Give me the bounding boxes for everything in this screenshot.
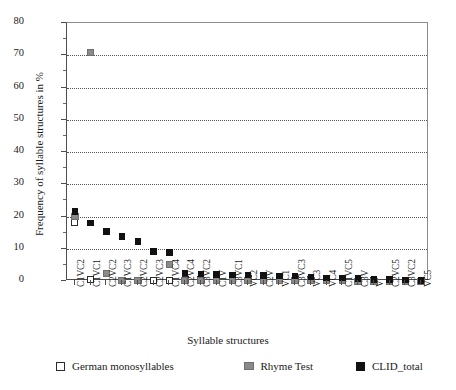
x-tick-mark-4 [137, 280, 138, 285]
legend-label: Rhyme Test [261, 360, 314, 372]
x-tick-mark-2 [105, 280, 106, 285]
x-tick-mark-11 [247, 280, 248, 285]
x-tick-label-10: C3VC1 [235, 213, 244, 287]
x-tick-mark-3 [121, 280, 122, 285]
x-tick-label-2: C2VC2 [109, 213, 118, 287]
x-tick-mark-9 [216, 280, 217, 285]
x-tick-mark-22 [420, 280, 421, 285]
x-tick-label-19: V [376, 213, 385, 287]
x-tick-label-11: VC2 [250, 213, 259, 287]
x-tick-label-14: C3VC3 [298, 213, 307, 287]
plot-area [66, 22, 428, 280]
x-axis-title: Syllable structures [0, 334, 456, 346]
x-tick-label-17: C1VC5 [345, 213, 354, 287]
y-tick-label-50: 50 [0, 113, 24, 124]
y-tick-label-0: 0 [0, 274, 24, 285]
x-tick-label-15: VC3 [313, 213, 322, 287]
gridline-40 [67, 152, 427, 153]
x-tick-label-7: C2VC4 [187, 213, 196, 287]
x-tick-label-22: VC5 [424, 213, 433, 287]
x-tick-mark-12 [263, 280, 264, 285]
x-tick-label-8: C3VC2 [203, 213, 212, 287]
legend-swatch-icon [244, 362, 254, 371]
x-tick-label-0: C1VC2 [77, 213, 86, 287]
gridline-70 [67, 55, 427, 56]
x-tick-label-12: C2V [266, 213, 275, 287]
x-tick-mark-19 [373, 280, 374, 285]
gridline-20 [67, 217, 427, 218]
y-tick-label-40: 40 [0, 145, 24, 156]
x-tick-mark-10 [231, 280, 232, 285]
y-tick-mark-0 [61, 280, 66, 281]
y-tick-label-10: 10 [0, 242, 24, 253]
x-tick-mark-20 [389, 280, 390, 285]
x-tick-label-6: C1VC4 [172, 213, 181, 287]
x-tick-label-20: C2VC5 [392, 213, 401, 287]
data-point [87, 49, 95, 56]
x-tick-mark-0 [74, 280, 75, 285]
legend-item-1: Rhyme Test [244, 360, 313, 372]
x-tick-mark-15 [310, 280, 311, 285]
legend-label: German monosyllables [72, 360, 174, 372]
gridline-10 [67, 249, 427, 250]
x-tick-mark-16 [326, 280, 327, 285]
chart-legend: German monosyllablesRhyme TestCLID_total [56, 360, 456, 378]
y-tick-label-20: 20 [0, 210, 24, 221]
gridline-60 [67, 88, 427, 89]
legend-swatch-icon [356, 362, 365, 371]
x-tick-label-1: C1VC1 [93, 213, 102, 287]
x-tick-mark-5 [153, 280, 154, 285]
y-tick-label-60: 60 [0, 81, 24, 92]
x-tick-mark-7 [184, 280, 185, 285]
x-tick-mark-1 [90, 280, 91, 285]
y-tick-label-30: 30 [0, 177, 24, 188]
gridline-30 [67, 184, 427, 185]
y-tick-label-80: 80 [0, 16, 24, 27]
x-tick-mark-21 [404, 280, 405, 285]
x-tick-label-21: C3VC2 [408, 213, 417, 287]
x-tick-label-16: VC4 [329, 213, 338, 287]
x-tick-label-13: VC1 [282, 213, 291, 287]
x-tick-label-3: C1VC3 [124, 213, 133, 287]
y-axis-title: Frequency of syllable structures in % [33, 29, 45, 279]
x-tick-mark-18 [357, 280, 358, 285]
x-tick-label-18: C3V [361, 213, 370, 287]
y-tick-label-70: 70 [0, 48, 24, 59]
x-tick-label-9: C1V [219, 213, 228, 287]
x-tick-label-4: C2VC2 [140, 213, 149, 287]
x-tick-mark-8 [200, 280, 201, 285]
gridline-50 [67, 120, 427, 121]
legend-swatch-icon [56, 362, 65, 371]
syllable-structure-frequency-chart: Frequency of syllable structures in % 01… [0, 0, 456, 390]
x-tick-label-5: C2VC3 [156, 213, 165, 287]
x-tick-mark-13 [278, 280, 279, 285]
legend-item-2: CLID_total [356, 360, 423, 372]
x-tick-mark-6 [168, 280, 169, 285]
x-tick-mark-14 [294, 280, 295, 285]
legend-item-0: German monosyllables [56, 360, 174, 372]
legend-label: CLID_total [372, 360, 423, 372]
x-tick-mark-17 [341, 280, 342, 285]
